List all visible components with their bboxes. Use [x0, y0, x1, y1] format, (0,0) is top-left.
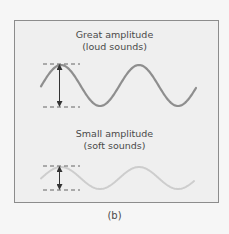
great-amplitude-wave [41, 65, 196, 106]
waves-canvas [0, 0, 229, 234]
figure-label: (b) [0, 210, 229, 221]
small-amplitude-wave [41, 167, 194, 189]
